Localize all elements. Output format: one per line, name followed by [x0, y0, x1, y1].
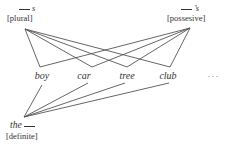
possessive-feature: [possesive] — [167, 14, 205, 23]
morphology-diagram: s [plural] ’s [possesive] boy car tree c… — [0, 0, 226, 151]
edge-plural-car — [25, 29, 92, 67]
word-boy: boy — [35, 71, 49, 81]
edge-plural-boy — [25, 29, 40, 67]
word-car: car — [77, 71, 90, 81]
plural-feature: [plural] — [7, 14, 33, 23]
word-ellipsis: . . . — [208, 71, 218, 79]
definite-feature: [definite] — [6, 132, 38, 141]
edge-definite-club — [24, 83, 169, 117]
edge-plural-club — [25, 29, 170, 67]
blank-slot — [181, 9, 192, 10]
possessive-form: ’s — [181, 4, 199, 13]
word-tree: tree — [119, 71, 134, 81]
blank-slot — [19, 9, 30, 10]
edge-definite-tree — [24, 83, 125, 117]
word-club: club — [159, 71, 176, 81]
definite-form: the — [10, 121, 35, 131]
edge-possessive-car — [92, 28, 190, 67]
edge-possessive-tree — [127, 28, 190, 67]
edge-possessive-boy — [40, 28, 190, 67]
plural-form: s — [19, 4, 35, 13]
blank-slot — [24, 126, 35, 127]
